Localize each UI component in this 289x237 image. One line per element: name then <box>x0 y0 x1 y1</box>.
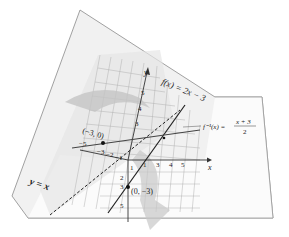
svg-text:−2: −2 <box>106 151 114 159</box>
svg-text:1: 1 <box>130 164 134 172</box>
svg-text:f⁻¹(x) =: f⁻¹(x) = <box>203 123 226 131</box>
svg-text:5: 5 <box>181 161 185 169</box>
svg-text:4: 4 <box>138 105 142 113</box>
inverse-function-figure: −5 −3 −2 −1 1 3 4 5 5 4 3 1 2 3 5 y x f(… <box>0 0 289 237</box>
svg-text:x + 3: x + 3 <box>235 118 251 126</box>
svg-text:−1: −1 <box>115 154 123 162</box>
svg-text:3: 3 <box>135 120 139 128</box>
y-axis-label: y <box>143 68 148 77</box>
svg-text:2: 2 <box>120 174 124 182</box>
svg-text:5: 5 <box>120 202 124 210</box>
svg-text:−5: −5 <box>79 140 87 148</box>
svg-text:3: 3 <box>156 161 160 169</box>
label-point-0-neg3: (0, −3) <box>131 187 153 196</box>
svg-text:3: 3 <box>120 183 124 191</box>
svg-text:4: 4 <box>169 161 173 169</box>
svg-text:−3: −3 <box>97 148 105 156</box>
point-neg3-0 <box>101 141 105 145</box>
x-axis-label: x <box>207 163 212 172</box>
svg-text:5: 5 <box>141 89 145 97</box>
point-intersection <box>163 137 166 140</box>
svg-text:1: 1 <box>143 161 147 169</box>
svg-text:2: 2 <box>243 128 247 136</box>
point-0-neg3 <box>126 185 130 189</box>
